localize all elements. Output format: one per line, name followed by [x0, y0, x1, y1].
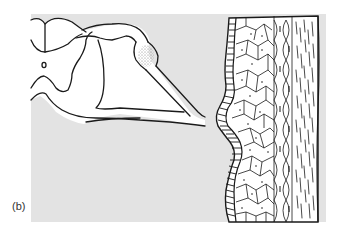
figure-label: (b) [12, 200, 25, 212]
dorsal-root-ganglion [138, 45, 154, 67]
spinal-cord-drawing [31, 18, 205, 126]
epithelium-drawing [216, 16, 319, 222]
figure-illustration [0, 0, 343, 239]
